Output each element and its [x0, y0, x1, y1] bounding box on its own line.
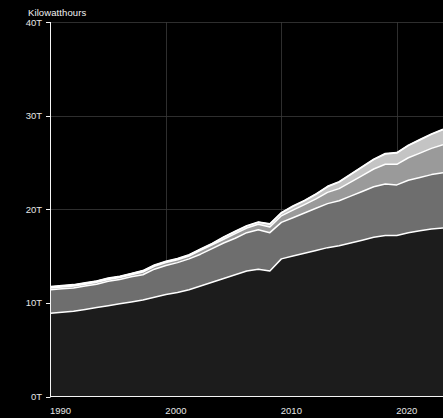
- y-tick-label-30T: 30T: [26, 110, 43, 121]
- y-tick-label-0T: 0T: [31, 391, 42, 402]
- y-tick-label-40T: 40T: [26, 17, 43, 28]
- y-tick-label-10T: 10T: [26, 297, 43, 308]
- x-tick-label-2000: 2000: [165, 405, 186, 416]
- x-tick-label-1990: 1990: [50, 405, 71, 416]
- chart-container: Kilowatthours 0T10T20T30T40T 19902000201…: [0, 0, 443, 418]
- x-tick-label-2010: 2010: [281, 405, 302, 416]
- stacked-area-chart: Kilowatthours 0T10T20T30T40T 19902000201…: [0, 0, 443, 418]
- y-tick-label-20T: 20T: [26, 204, 43, 215]
- x-tick-label-2020: 2020: [396, 405, 417, 416]
